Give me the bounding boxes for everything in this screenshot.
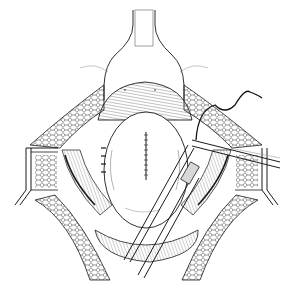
surgical-illustration xyxy=(0,0,293,295)
lower-tissue-mass xyxy=(95,230,198,262)
central-organ-with-suture-line xyxy=(101,112,188,228)
